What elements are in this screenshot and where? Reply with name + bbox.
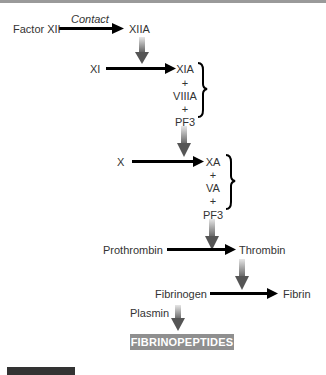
catalysis-arrow-pf3-2 — [205, 219, 219, 250]
arrow-xi-to-xia — [106, 63, 176, 74]
node-xi: XI — [90, 63, 100, 75]
plus-sign: + — [170, 77, 200, 89]
arrow-x-to-xa — [132, 156, 204, 167]
node-pf3: PF3 — [170, 116, 200, 128]
arrow-fibrinogen-to-fibrin — [210, 288, 278, 299]
node-x: X — [117, 156, 124, 168]
node-pf3: PF3 — [198, 209, 228, 221]
catalysis-arrow-pf3-1 — [177, 126, 191, 157]
node-va: VA — [198, 182, 228, 194]
catalysis-arrow-xiia — [135, 37, 149, 64]
plus-sign: + — [170, 103, 200, 115]
node-thrombin: Thrombin — [239, 244, 285, 256]
node-fibrinogen: Fibrinogen — [155, 288, 207, 300]
plus-sign: + — [198, 195, 228, 207]
catalysis-arrow-thrombin — [235, 259, 249, 290]
catalysis-arrow-plasmin — [171, 305, 185, 331]
plus-sign: + — [198, 169, 228, 181]
figure-label-bar — [7, 367, 75, 375]
node-xia: XIA — [170, 63, 200, 75]
node-fibrin: Fibrin — [283, 288, 311, 300]
node-factor-xii: Factor XII — [13, 23, 61, 35]
node-xiia: XIIA — [129, 23, 150, 35]
arrow-prothrombin-to-thrombin — [167, 244, 236, 255]
contact-label: Contact — [71, 13, 109, 25]
node-fibrinopeptides: FIBRINOPEPTIDES — [130, 334, 234, 350]
node-xa: XA — [198, 156, 228, 168]
node-viiia: VIIIA — [168, 90, 202, 102]
node-prothrombin: Prothrombin — [103, 244, 163, 256]
node-plasmin: Plasmin — [130, 307, 169, 319]
